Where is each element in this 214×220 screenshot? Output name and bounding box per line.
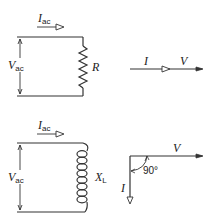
- phasor-current-label: I: [143, 54, 149, 68]
- inductor-label: XL: [94, 170, 107, 185]
- resistor-label: R: [91, 60, 100, 74]
- current-label: Iac: [37, 118, 50, 133]
- phasor-current-label: I: [120, 181, 126, 195]
- phasor-voltage-label: V: [173, 141, 182, 155]
- diagram-canvas: Vac Iac R I V Vac Iac XL: [0, 0, 214, 220]
- voltage-phasor-arrowhead-icon: [196, 67, 203, 71]
- current-phasor-arrowhead-icon: [162, 66, 170, 72]
- resistor-icon: [79, 46, 87, 88]
- voltage-phasor-arrowhead-icon: [196, 154, 203, 158]
- inductor-lead-bottom: [85, 202, 87, 212]
- phasor-voltage-label: V: [180, 54, 189, 68]
- inductor-lead-top: [83, 143, 88, 151]
- current-phasor-arrowhead-icon: [127, 197, 133, 204]
- inductor-coil-icon: [77, 151, 87, 203]
- current-arrowhead-icon: [56, 131, 64, 137]
- phase-angle-label: 90°: [143, 165, 158, 176]
- current-label: Iac: [37, 11, 50, 26]
- current-arrowhead-icon: [56, 24, 64, 30]
- resistive-phasor: [130, 66, 203, 72]
- inductive-phasor: [127, 154, 203, 204]
